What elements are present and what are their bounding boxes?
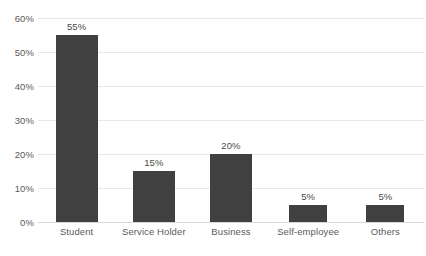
y-tick-label-0: 0% xyxy=(0,217,34,228)
x-category-label-service-holder: Service Holder xyxy=(115,226,192,237)
bar-value-self-employee: 5% xyxy=(270,191,347,202)
gridline-0-baseline xyxy=(38,222,424,223)
x-category-label-student: Student xyxy=(38,226,115,237)
bar-chart: 60% 50% 40% 30% 20% 10% 0% 55% 15% 20% xyxy=(0,0,426,256)
y-tick-label-60: 60% xyxy=(0,13,34,24)
bar-slot-others: 5% xyxy=(347,18,424,222)
y-tick-label-30: 30% xyxy=(0,115,34,126)
x-category-label-others: Others xyxy=(347,226,424,237)
bar-value-others: 5% xyxy=(347,191,424,202)
bar-slot-business: 20% xyxy=(192,18,269,222)
bar-others[interactable] xyxy=(366,205,404,222)
bar-slot-self-employee: 5% xyxy=(270,18,347,222)
y-tick-label-10: 10% xyxy=(0,183,34,194)
bars-layer: 55% 15% 20% 5% 5% xyxy=(38,18,424,222)
bar-slot-service-holder: 15% xyxy=(115,18,192,222)
bar-service-holder[interactable] xyxy=(133,171,175,222)
y-tick-label-20: 20% xyxy=(0,149,34,160)
x-axis: Student Service Holder Business Self-emp… xyxy=(38,226,424,237)
bar-business[interactable] xyxy=(210,154,252,222)
bar-student[interactable] xyxy=(56,35,98,222)
x-category-label-business: Business xyxy=(192,226,269,237)
y-tick-label-50: 50% xyxy=(0,47,34,58)
bar-value-student: 55% xyxy=(38,21,115,32)
y-axis: 60% 50% 40% 30% 20% 10% 0% xyxy=(0,18,34,222)
y-tick-label-40: 40% xyxy=(0,81,34,92)
bar-slot-student: 55% xyxy=(38,18,115,222)
bar-value-service-holder: 15% xyxy=(115,157,192,168)
x-category-label-self-employee: Self-employee xyxy=(270,226,347,237)
bar-self-employee[interactable] xyxy=(289,205,327,222)
bar-value-business: 20% xyxy=(192,140,269,151)
